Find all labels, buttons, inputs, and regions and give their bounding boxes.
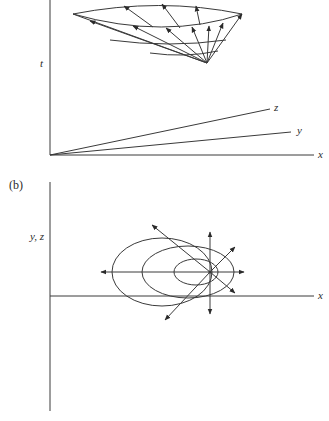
x-axis-label-a: x bbox=[317, 148, 323, 160]
cone-arrow bbox=[192, 27, 207, 63]
ray-arrow-downright bbox=[210, 272, 235, 293]
z-axis-label: z bbox=[273, 101, 279, 113]
panel-b: (b) y, z x bbox=[9, 178, 323, 411]
cone-rim-back bbox=[73, 6, 242, 15]
z-axis bbox=[50, 109, 270, 155]
cone-arrow bbox=[124, 6, 153, 27]
cone-arrow bbox=[207, 23, 223, 63]
cone-rim-front bbox=[73, 14, 242, 27]
panel-label-b: (b) bbox=[9, 178, 23, 192]
y-axis bbox=[50, 132, 291, 155]
x-axis-label-b: x bbox=[317, 289, 323, 301]
yz-axis-label: y, z bbox=[29, 230, 45, 242]
diagram-canvas: t x z y (b) y, z x bbox=[0, 0, 329, 421]
cone-arrow bbox=[90, 21, 207, 63]
cone-edge-right bbox=[207, 14, 242, 63]
t-axis-label: t bbox=[40, 57, 44, 69]
cone-arrow bbox=[162, 4, 180, 28]
ray-arrow-upleft bbox=[152, 225, 210, 272]
panel-a: t x z y bbox=[40, 0, 323, 160]
cone-arrow bbox=[196, 6, 200, 25]
y-axis-label: y bbox=[296, 124, 302, 136]
